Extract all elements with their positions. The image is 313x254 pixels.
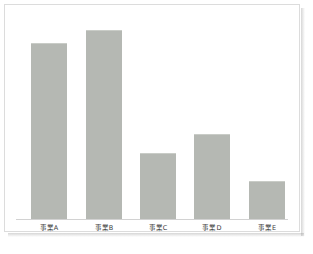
bar-label-1: 事業B [86, 224, 122, 233]
chart-card: 事業A 事業B 事業C 事業D 事業E [4, 4, 300, 232]
bar-chart: 事業A 事業B 事業C 事業D 事業E [5, 5, 301, 233]
screenshot-canvas: 事業A 事業B 事業C 事業D 事業E [0, 0, 313, 254]
card-shadow-bottom [8, 233, 304, 237]
bar-label-4: 事業E [249, 224, 285, 233]
card-shadow-right [301, 8, 305, 236]
x-axis-line [16, 219, 288, 220]
bar-label-0: 事業A [31, 224, 67, 233]
bar-1[interactable] [86, 30, 122, 219]
bar-0[interactable] [31, 43, 67, 219]
bar-2[interactable] [140, 153, 176, 219]
bar-4[interactable] [249, 181, 285, 219]
bar-label-3: 事業D [194, 224, 230, 233]
bar-3[interactable] [194, 134, 230, 219]
bar-label-2: 事業C [140, 224, 176, 233]
